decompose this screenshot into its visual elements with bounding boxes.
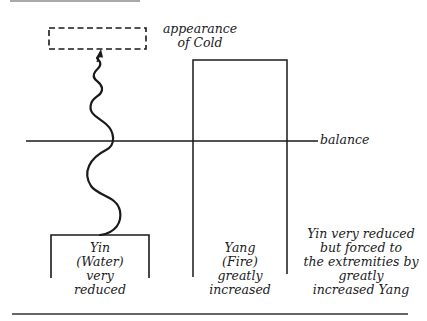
- balance-label: balance: [320, 133, 369, 147]
- yin-line-3: very: [60, 269, 140, 283]
- yang-line-3: greatly: [200, 269, 280, 283]
- explanation-note: Yin very reduced but forced to the extre…: [300, 227, 422, 297]
- arrowhead-icon: [97, 49, 104, 58]
- note-line-5: increased Yang: [300, 283, 422, 297]
- yang-line-1: Yang: [200, 241, 280, 255]
- yin-label: Yin (Water) very reduced: [60, 241, 140, 297]
- appearance-of-cold-label: appearance of Cold: [160, 22, 240, 50]
- note-line-3: the extremities by: [300, 255, 422, 269]
- wavy-arrow-line: [87, 58, 120, 235]
- yang-label: Yang (Fire) greatly increased: [200, 241, 280, 297]
- note-line-2: but forced to: [300, 241, 422, 255]
- balance-text: balance: [320, 133, 369, 147]
- yin-line-2: (Water): [60, 255, 140, 269]
- appearance-of-cold-box: [49, 28, 146, 49]
- note-line-1: Yin very reduced: [300, 227, 422, 241]
- yang-line-2: (Fire): [200, 255, 280, 269]
- appearance-line-1: appearance: [160, 22, 240, 36]
- yin-line-4: reduced: [60, 283, 140, 297]
- appearance-line-2: of Cold: [160, 36, 240, 50]
- yin-yang-imbalance-diagram: appearance of Cold balance Yin (Water) v…: [0, 0, 427, 321]
- yang-line-4: increased: [200, 283, 280, 297]
- yin-line-1: Yin: [60, 241, 140, 255]
- note-line-4: greatly: [300, 269, 422, 283]
